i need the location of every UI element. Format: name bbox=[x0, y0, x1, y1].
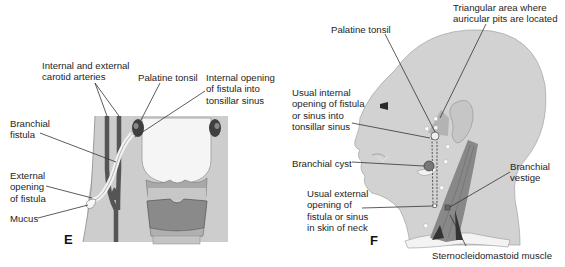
label-line: Internal opening bbox=[206, 72, 275, 83]
label-internal-opening: Internal opening of fistula into tonsill… bbox=[206, 72, 275, 106]
label-line: External bbox=[10, 170, 46, 181]
label-branchial-fistula: Branchial fistula bbox=[10, 118, 50, 141]
label-palatine-tonsil-f: Palatine tonsil bbox=[331, 24, 391, 35]
label-line: Internal and external bbox=[42, 60, 129, 71]
label-line: opening of fistula bbox=[292, 98, 365, 109]
label-sternocleidomastoid: Sternocleidomastoid muscle bbox=[432, 250, 552, 261]
diagram-artwork bbox=[0, 0, 565, 267]
label-line: opening bbox=[10, 181, 46, 192]
label-triangular-area: Triangular area where auricular pits are… bbox=[453, 2, 558, 25]
label-line: Branchial bbox=[510, 161, 550, 172]
label-external-opening: External opening of fistula bbox=[10, 170, 46, 204]
label-line: fistula or sinus bbox=[307, 211, 368, 222]
branchial-cyst bbox=[424, 161, 434, 171]
label-line: carotid arteries bbox=[42, 71, 129, 82]
branchial-vestige bbox=[445, 205, 450, 210]
label-line: vestige bbox=[510, 172, 550, 183]
label-line: or sinus into bbox=[292, 110, 365, 121]
label-carotid-arteries: Internal and external carotid arteries bbox=[42, 60, 129, 83]
label-branchial-cyst: Branchial cyst bbox=[292, 158, 352, 169]
label-line: tonsillar sinus bbox=[292, 121, 365, 132]
label-mucus: Mucus bbox=[10, 213, 38, 224]
label-line: in skin of neck bbox=[307, 222, 368, 233]
label-line: of fistula bbox=[10, 193, 46, 204]
panel-e-illustration bbox=[83, 116, 228, 244]
label-usual-external-opening: Usual external opening of fistula or sin… bbox=[307, 188, 368, 234]
panel-letter-f: F bbox=[370, 233, 378, 248]
label-palatine-tonsil-e: Palatine tonsil bbox=[138, 72, 198, 83]
label-line: of fistula into bbox=[206, 83, 275, 94]
panel-letter-e: E bbox=[64, 232, 73, 247]
label-line: auricular pits are located bbox=[453, 13, 558, 24]
palatine-tonsil-right bbox=[209, 119, 221, 137]
label-line: opening of bbox=[307, 199, 368, 210]
label-branchial-vestige: Branchial vestige bbox=[510, 161, 550, 184]
palatine-tonsil-left bbox=[132, 119, 144, 137]
label-line: fistula bbox=[10, 129, 50, 140]
label-line: Usual internal bbox=[292, 87, 365, 98]
label-line: tonsillar sinus bbox=[206, 95, 275, 106]
label-line: Branchial bbox=[10, 118, 50, 129]
label-line: Triangular area where bbox=[453, 2, 558, 13]
label-line: Usual external bbox=[307, 188, 368, 199]
label-usual-internal-opening: Usual internal opening of fistula or sin… bbox=[292, 87, 365, 133]
